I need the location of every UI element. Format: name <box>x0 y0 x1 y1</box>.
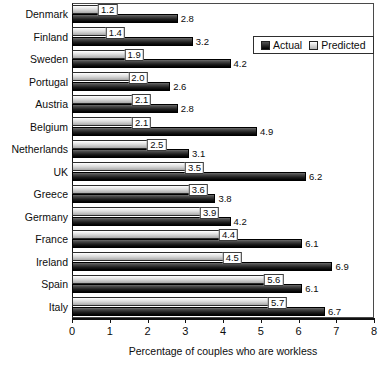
value-label-predicted: 5.6 <box>264 274 283 286</box>
bar-group: 2.14.9 <box>72 117 374 137</box>
legend-label-predicted: Predicted <box>321 40 365 51</box>
x-tick-mark <box>72 318 73 323</box>
value-label-actual: 3.1 <box>189 149 205 159</box>
x-tick-mark <box>336 318 337 323</box>
x-tick-mark <box>148 318 149 323</box>
x-axis-ticks: 012345678 <box>0 318 383 340</box>
category-label: Netherlands <box>0 138 68 161</box>
category-label: Denmark <box>0 3 68 26</box>
bar-predicted <box>72 207 219 216</box>
value-label-predicted: 3.5 <box>185 162 204 174</box>
bar-group: 4.56.9 <box>72 252 374 272</box>
value-label-actual: 4.9 <box>257 127 273 137</box>
x-tick-mark <box>223 318 224 323</box>
bar-group: 1.22.8 <box>72 5 374 25</box>
bar-group: 3.56.2 <box>72 162 374 182</box>
bar-actual <box>72 239 302 248</box>
bar-predicted <box>72 230 238 239</box>
bar-group: 4.46.1 <box>72 230 374 250</box>
chart-row: France4.46.1 <box>0 228 383 251</box>
category-label: UK <box>0 161 68 184</box>
x-axis-title: Percentage of couples who are workless <box>72 345 374 357</box>
bar-actual <box>72 262 332 271</box>
value-label-predicted: 3.6 <box>189 184 208 196</box>
category-label: Austria <box>0 93 68 116</box>
chart-legend: Actual Predicted <box>253 36 374 54</box>
x-tick-label: 3 <box>170 325 200 337</box>
bar-group: 5.66.1 <box>72 275 374 295</box>
bar-actual <box>72 59 231 68</box>
chart-row: Germany3.94.2 <box>0 206 383 229</box>
value-label-predicted: 1.2 <box>98 4 117 16</box>
x-tick-mark <box>261 318 262 323</box>
value-label-actual: 6.2 <box>306 172 322 182</box>
chart-row: Belgium2.14.9 <box>0 116 383 139</box>
x-tick-label: 7 <box>321 325 351 337</box>
bar-predicted <box>72 297 287 306</box>
bar-predicted <box>72 252 242 261</box>
value-label-actual: 6.1 <box>302 284 318 294</box>
bar-actual <box>72 14 178 23</box>
value-label-predicted: 3.9 <box>200 207 219 219</box>
x-tick-label: 5 <box>246 325 276 337</box>
x-tick-label: 6 <box>284 325 314 337</box>
bar-predicted <box>72 185 208 194</box>
bar-chart: Denmark1.22.8Finland1.43.2Sweden1.94.2Po… <box>0 0 383 367</box>
value-label-actual: 6.7 <box>325 307 341 317</box>
chart-row: Greece3.63.8 <box>0 183 383 206</box>
category-label: Germany <box>0 206 68 229</box>
value-label-actual: 2.8 <box>178 14 194 24</box>
predicted-swatch-icon <box>309 41 318 50</box>
legend-label-actual: Actual <box>273 40 302 51</box>
legend-item-actual: Actual <box>261 40 302 51</box>
x-tick-label: 0 <box>57 325 87 337</box>
category-label: Ireland <box>0 251 68 274</box>
category-label: Italy <box>0 296 68 319</box>
value-label-predicted: 2.5 <box>147 139 166 151</box>
value-label-predicted: 1.4 <box>106 27 125 39</box>
x-tick-mark <box>374 318 375 323</box>
value-label-predicted: 2.1 <box>132 94 151 106</box>
x-tick-mark <box>299 318 300 323</box>
value-label-actual: 4.2 <box>231 59 247 69</box>
bar-actual <box>72 149 189 158</box>
chart-row: Portugal2.02.6 <box>0 71 383 94</box>
chart-row: Netherlands2.53.1 <box>0 138 383 161</box>
category-label: Sweden <box>0 48 68 71</box>
legend-item-predicted: Predicted <box>309 40 365 51</box>
value-label-actual: 3.2 <box>193 37 209 47</box>
x-tick-label: 8 <box>359 325 383 337</box>
value-label-predicted: 5.7 <box>268 297 287 309</box>
chart-row: Ireland4.56.9 <box>0 251 383 274</box>
bar-group: 5.76.7 <box>72 297 374 317</box>
bar-actual <box>72 37 193 46</box>
value-label-actual: 6.1 <box>302 239 318 249</box>
x-tick-mark <box>185 318 186 323</box>
bar-group: 2.02.6 <box>72 72 374 92</box>
value-label-predicted: 1.9 <box>125 49 144 61</box>
value-label-actual: 2.6 <box>170 82 186 92</box>
chart-row: Spain5.66.1 <box>0 273 383 296</box>
value-label-actual: 3.8 <box>215 194 231 204</box>
bar-group: 3.94.2 <box>72 207 374 227</box>
category-label: Spain <box>0 273 68 296</box>
x-tick-mark <box>110 318 111 323</box>
actual-swatch-icon <box>261 41 270 50</box>
value-label-predicted: 2.1 <box>132 117 151 129</box>
category-label: Portugal <box>0 71 68 94</box>
chart-row: Italy5.76.7 <box>0 296 383 319</box>
value-label-actual: 6.9 <box>332 262 348 272</box>
category-label: Greece <box>0 183 68 206</box>
chart-row: Denmark1.22.8 <box>0 3 383 26</box>
bar-group: 3.63.8 <box>72 185 374 205</box>
value-label-predicted: 4.5 <box>223 252 242 264</box>
bar-predicted <box>72 275 283 284</box>
bar-group: 2.12.8 <box>72 95 374 115</box>
bar-actual <box>72 104 178 113</box>
chart-row: Austria2.12.8 <box>0 93 383 116</box>
category-label: Belgium <box>0 116 68 139</box>
x-tick-label: 2 <box>133 325 163 337</box>
x-tick-label: 1 <box>95 325 125 337</box>
x-tick-label: 4 <box>208 325 238 337</box>
value-label-actual: 4.2 <box>231 217 247 227</box>
